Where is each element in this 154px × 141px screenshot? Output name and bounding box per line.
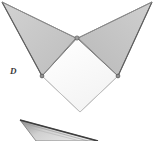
vertex-dot-left [40, 74, 44, 78]
figure-label-d: D [10, 67, 17, 76]
geometric-figure-svg [0, 0, 154, 141]
vertex-dot-right [116, 74, 120, 78]
figure-canvas: D [0, 0, 154, 141]
vertex-dot-center [75, 36, 79, 40]
